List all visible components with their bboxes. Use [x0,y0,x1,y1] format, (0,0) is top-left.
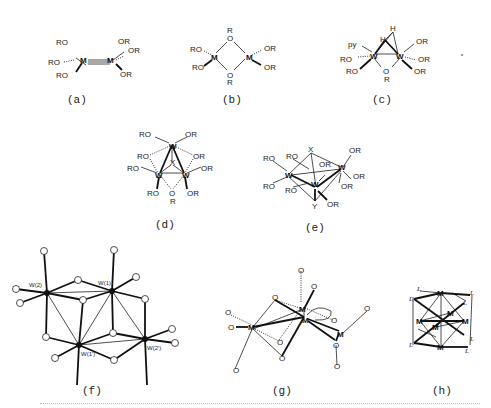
ligand-l: L [408,341,413,349]
metal-w: W [182,171,190,180]
tungsten-atom [142,336,148,342]
tungsten-atom [109,288,115,294]
structure-e-drawing: X RO RO OR OR W W OR W OR RO RO Y OR [263,143,373,213]
ligand-or: OR [264,44,276,53]
ligand-or: OR [193,152,205,161]
bridge-r: R [384,75,390,84]
metal-w: W [370,52,378,61]
ligand-ro: RO [286,152,298,161]
oxygen-atom [111,247,118,254]
oxygen-label: O [228,323,234,332]
metal-atom: M [447,309,454,318]
metal-atom: M [416,317,423,326]
metal-w: W [396,52,404,61]
oxygen-atom [172,340,179,347]
label-b: (b) [222,94,242,106]
oxygen-label: O [364,304,370,313]
structure-d-drawing: RO OR W RO OR X RO W W OR RO O R OR [127,133,237,218]
ligand-or: OR [118,37,130,46]
ligand-l: L [469,335,474,343]
structure-f-drawing: W(2) W(1) W(1') W(2') [0,240,200,380]
ligand-ro: RO [127,164,139,173]
oxygen-label: O [331,316,337,325]
oxygen-atom [75,277,82,284]
metal-atom: M [246,53,253,62]
ligand-ro: RO [56,71,68,80]
ligand-or: OR [264,63,276,72]
label-d: (d) [155,219,175,231]
oxygen-label: O [333,341,339,350]
structure-h-drawing: L L L L L L L M M M M M M [408,285,478,355]
ligand-or: OR [201,164,213,173]
oxygen-label: O [279,354,285,363]
ligand-l: L [469,289,474,297]
ligand-or: OR [349,146,361,155]
ligand-ro: RO [263,182,275,191]
oxygen-atom [52,355,59,362]
structure-g-drawing: O O O M O O O M O M M O O O O O [225,265,380,380]
structure-g: O O O M O O O M O M M O O O O O [225,265,380,380]
bridge-r: R [170,197,176,206]
label-a: (a) [67,94,87,106]
oxygen-atom [110,330,117,337]
structure-d: RO OR W RO OR X RO W W OR RO O R OR [127,133,237,218]
label-e: (e) [305,222,325,234]
label-f: (f) [82,385,102,397]
ligand-or: OR [185,130,197,139]
ligand-or: OR [187,189,199,198]
metal-atom: M [437,343,444,352]
structure-e: X RO RO OR OR W W OR W OR RO RO Y OR [263,143,373,213]
ligand-l: L [416,285,421,293]
atom-label-w1p: W(1') [81,351,95,357]
ligand-py: py [348,40,356,49]
oxygen-label: O [298,266,304,275]
metal-atom: M [299,305,306,314]
hydride-h: H [390,24,396,33]
oxygen-atom [133,274,140,281]
metal-w: W [311,180,319,189]
structure-c: H H py W W RO RO O R OR OR OR [340,12,460,87]
oxygen-label: O [334,362,340,371]
label-c: (c) [372,94,392,106]
ligand-or: OR [416,37,428,46]
oxygen-label: O [272,293,278,302]
atom-label-w2p: W(2') [147,345,161,351]
ligand-or: OR [353,172,365,181]
cut-off-caption-line [40,403,480,408]
atom-label-w2: W(2) [29,282,42,288]
metal-atom: M [302,316,309,325]
ligand-ro: RO [56,38,68,47]
metal-atom: M [211,53,218,62]
structure-b: R O M M O R RO RO OR OR [190,25,300,85]
ligand-ro: RO [139,130,151,139]
structure-f: W(2) W(1) W(1') W(2') [0,240,200,380]
ligand-ro: RO [346,67,358,76]
metal-atom: M [437,289,444,298]
metal-atom: M [248,323,255,332]
metal-atom: M [462,317,469,326]
ligand-or: OR [341,182,353,191]
ligand-ro: RO [137,152,149,161]
ligand-l: L [464,347,469,355]
oxygen-label: O [277,338,283,347]
ligand-or: OR [327,200,339,209]
structure-a: RO RO RO M M OR OR OR [40,30,140,110]
capping-x: X [170,158,176,167]
hydride-h: H [380,35,386,44]
ligand-or: OR [319,160,331,169]
capping-y: Y [312,202,318,211]
scan-speck [461,54,463,56]
structure-a-drawing: RO RO RO M M OR OR OR [40,30,140,110]
capping-x: X [308,145,314,154]
label-h: (h) [432,385,452,397]
oxygen-atom [17,300,24,307]
ligand-ro: RO [147,189,159,198]
ligand-or: OR [120,70,132,79]
oxygen-atom [41,248,48,255]
oxygen-atom [80,297,87,304]
structure-b-drawing: R O M M O R RO RO OR OR [190,25,300,85]
tungsten-atom [76,342,82,348]
metal-w: W [338,163,346,172]
oxygen-atom [142,296,149,303]
oxygen-atom [111,357,118,364]
